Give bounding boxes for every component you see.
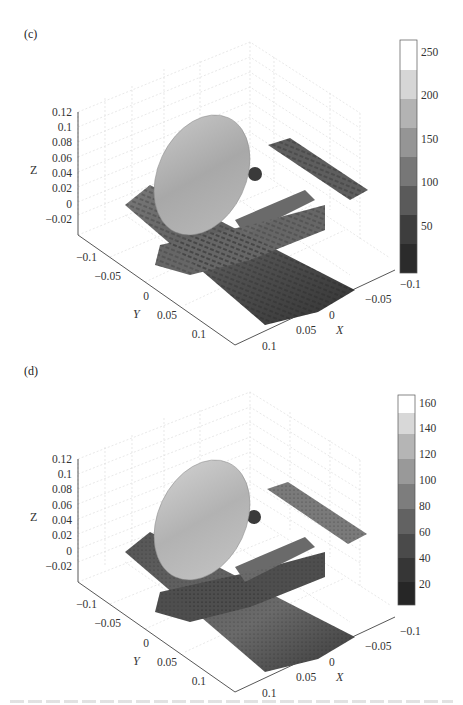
figure-caption-cutoff bbox=[10, 700, 453, 703]
colorbar-tick: 200 bbox=[421, 89, 439, 101]
z-tick: 0.08 bbox=[52, 483, 72, 495]
z-tick: 0.02 bbox=[52, 529, 72, 541]
aircraft-model-surface bbox=[125, 444, 367, 672]
z-tick: 0 bbox=[66, 545, 72, 557]
z-tick: 0.08 bbox=[52, 136, 72, 148]
panel-d: (d) bbox=[0, 352, 463, 705]
y-tick: −0.05 bbox=[94, 617, 121, 629]
colorbar-tick: 120 bbox=[419, 448, 437, 460]
z-axis-label: Z bbox=[30, 163, 37, 177]
z-tick: 0.12 bbox=[52, 453, 72, 465]
colorbar-tick: 100 bbox=[419, 474, 437, 486]
colorbar: 250 200 150 100 50 bbox=[400, 40, 439, 273]
x-tick: 0.1 bbox=[262, 687, 277, 699]
colorbar-tick: 160 bbox=[419, 397, 437, 409]
z-tick: 0.06 bbox=[52, 152, 72, 164]
colorbar-tick: 20 bbox=[419, 578, 431, 590]
x-axis-label: X bbox=[335, 323, 344, 337]
y-tick: −0.1 bbox=[76, 598, 97, 610]
plot-3d: 0.12 0.1 0.08 0.06 0.04 0.02 0 −0.02 Z −… bbox=[0, 0, 463, 352]
x-tick: −0.05 bbox=[365, 293, 392, 305]
panel-c: (c) bbox=[0, 0, 463, 352]
z-tick: 0.1 bbox=[58, 121, 73, 133]
y-axis-label: Y bbox=[133, 307, 141, 321]
colorbar-tick: 80 bbox=[419, 500, 431, 512]
z-tick: 0.02 bbox=[52, 182, 72, 194]
y-tick: −0.1 bbox=[76, 251, 97, 263]
z-axis-label: Z bbox=[30, 510, 37, 524]
colorbar-tick: 140 bbox=[419, 422, 437, 434]
y-tick: 0 bbox=[143, 290, 149, 302]
z-axis-ticks: 0.12 0.1 0.08 0.06 0.04 0.02 0 −0.02 bbox=[45, 453, 72, 572]
z-axis-ticks: 0.12 0.1 0.08 0.06 0.04 0.02 0 −0.02 bbox=[45, 106, 72, 225]
y-tick: 0 bbox=[143, 637, 149, 649]
y-tick: −0.05 bbox=[94, 270, 121, 282]
x-tick: 0.05 bbox=[296, 671, 316, 683]
plot-3d: 0.12 0.1 0.08 0.06 0.04 0.02 0 −0.02 Z −… bbox=[0, 352, 463, 705]
z-tick: 0.1 bbox=[58, 468, 73, 480]
aircraft-model-surface bbox=[125, 99, 368, 325]
colorbar-tick: 250 bbox=[421, 46, 439, 58]
z-tick: 0.12 bbox=[52, 106, 72, 118]
y-tick: 0.05 bbox=[157, 309, 177, 321]
x-tick: 0.1 bbox=[262, 340, 277, 352]
y-tick: 0.05 bbox=[157, 656, 177, 668]
z-tick: 0 bbox=[66, 198, 72, 210]
z-tick: −0.02 bbox=[45, 560, 72, 572]
x-tick: −0.1 bbox=[400, 625, 421, 637]
colorbar-tick: 40 bbox=[419, 552, 431, 564]
z-tick: 0.06 bbox=[52, 499, 72, 511]
x-tick: 0 bbox=[329, 309, 335, 321]
colorbar-tick: 150 bbox=[421, 133, 439, 145]
y-tick: 0.1 bbox=[192, 328, 207, 340]
z-tick: −0.02 bbox=[45, 213, 72, 225]
colorbar-tick: 50 bbox=[421, 220, 433, 232]
y-tick: 0.1 bbox=[192, 675, 207, 687]
x-tick: −0.1 bbox=[400, 278, 421, 290]
y-axis-label: Y bbox=[133, 654, 141, 668]
colorbar: 160 140 120 100 80 60 40 20 bbox=[398, 395, 437, 605]
colorbar-tick: 100 bbox=[421, 176, 439, 188]
x-tick: 0.05 bbox=[296, 324, 316, 336]
x-tick: −0.05 bbox=[365, 640, 392, 652]
z-tick: 0.04 bbox=[52, 167, 72, 179]
x-tick: 0 bbox=[329, 656, 335, 668]
z-tick: 0.04 bbox=[52, 514, 72, 526]
colorbar-tick: 60 bbox=[419, 526, 431, 538]
x-axis-label: X bbox=[335, 670, 344, 684]
